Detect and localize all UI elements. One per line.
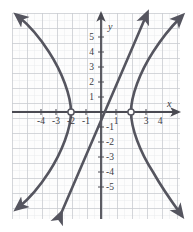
x-tick-label-4: 4: [158, 116, 163, 126]
y-tick-label-neg3: -3: [106, 152, 114, 162]
x-tick-label-neg3: -3: [52, 116, 60, 126]
coordinate-plane-svg: -4 -3 -2 -1 1 3 4 5 4 3 2 1 -1 -2 -3 -4 …: [0, 0, 193, 232]
y-tick-label-4: 4: [89, 47, 94, 57]
x-tick-label-1: 1: [114, 116, 119, 126]
y-tick-label-3: 3: [89, 62, 94, 72]
graph-figure: -4 -3 -2 -1 1 3 4 5 4 3 2 1 -1 -2 -3 -4 …: [0, 0, 193, 232]
y-tick-label-neg5: -5: [106, 182, 114, 192]
y-axis-label: y: [107, 21, 113, 32]
y-tick-label-5: 5: [89, 32, 94, 42]
y-tick-label-neg4: -4: [106, 167, 114, 177]
x-tick-label-3: 3: [144, 116, 149, 126]
y-tick-label-1: 1: [89, 92, 94, 102]
x-axis-label: x: [166, 98, 172, 109]
y-tick-label-neg2: -2: [106, 137, 114, 147]
vertex-right-open-circle: [128, 109, 134, 115]
x-tick-label-neg2: -2: [67, 116, 75, 126]
x-tick-label-neg4: -4: [37, 116, 45, 126]
y-tick-label-neg1: -1: [106, 122, 114, 132]
x-tick-label-neg1: -1: [82, 116, 90, 126]
vertex-left-open-circle: [68, 109, 74, 115]
y-tick-label-2: 2: [89, 77, 94, 87]
